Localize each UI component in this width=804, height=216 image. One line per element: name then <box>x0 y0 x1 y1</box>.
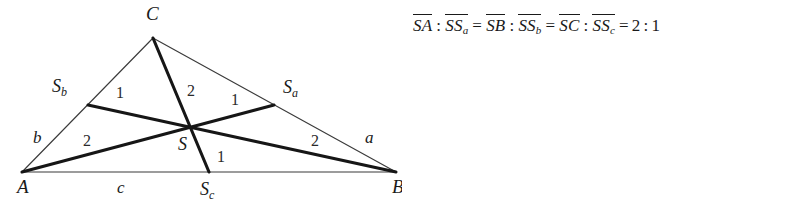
formula-overline-term: SSb <box>518 14 541 36</box>
formula-overline-term: SC <box>559 14 579 36</box>
figure-root: A B C Sa Sb Sc S a b c 1 2 1 2 2 1 SA:SS… <box>0 0 804 216</box>
formula-number: 2 <box>632 16 641 35</box>
formula-operator: = <box>545 16 555 35</box>
formula-subscript: a <box>463 24 469 36</box>
formula-overline-term: SSc <box>592 14 615 36</box>
midpoint-label-Sc: Sc <box>200 179 215 202</box>
side-label-b: b <box>33 128 42 147</box>
formula-overline-term: SA <box>413 14 432 36</box>
ratio-label-ssc-segment-1: 1 <box>217 148 225 165</box>
triangle-centroid-diagram: A B C Sa Sb Sc S a b c 1 2 1 2 2 1 <box>0 0 402 216</box>
vertex-label-A: A <box>15 176 29 197</box>
midpoint-label-Sa-base: S <box>283 77 292 97</box>
centroid-label-S: S <box>178 134 187 154</box>
formula-operator: : <box>584 16 589 35</box>
ratio-label-bs-segment-2: 2 <box>311 132 319 149</box>
formula-subscript: b <box>536 24 542 36</box>
midpoint-label-Sb-sub: b <box>61 85 67 99</box>
vertex-label-B: B <box>392 176 402 197</box>
midpoint-label-Sc-base: S <box>200 179 209 199</box>
midpoint-label-Sa-sub: a <box>292 86 298 100</box>
vertex-label-C: C <box>146 3 159 24</box>
ratio-label-sb-segment-1: 1 <box>116 84 124 101</box>
midpoint-label-Sa: Sa <box>283 77 298 100</box>
midpoint-label-Sb: Sb <box>52 76 67 99</box>
formula-operator: : <box>436 16 441 35</box>
formula-operator: : <box>509 16 514 35</box>
side-label-c: c <box>117 178 125 197</box>
midpoint-label-Sc-sub: c <box>209 188 215 202</box>
ratio-label-cs-segment-2: 2 <box>187 82 195 99</box>
formula-subscript: c <box>610 24 615 36</box>
formula-overline-term: SB <box>486 14 505 36</box>
formula-overline-term: SSa <box>445 14 468 36</box>
side-label-a: a <box>365 128 374 147</box>
ratio-label-as-segment-2: 2 <box>83 132 91 149</box>
formula-number: 1 <box>651 16 660 35</box>
midpoint-label-Sb-base: S <box>52 76 61 96</box>
ratio-label-sa-segment-1: 1 <box>231 91 239 108</box>
centroid-ratio-formula: SA:SSa=SB:SSb=SC:SSc=2:1 <box>412 14 798 36</box>
formula-operator: = <box>472 16 482 35</box>
formula-operator: : <box>643 16 648 35</box>
formula-operator: = <box>619 16 629 35</box>
